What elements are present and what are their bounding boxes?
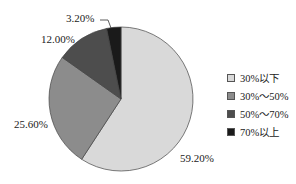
legend-item: 70%以上 [227, 124, 289, 139]
legend-item: 30%以下 [227, 70, 289, 85]
legend: 30%以下 30%～50% 50%～70% 70%以上 [227, 70, 289, 142]
legend-item: 50%～70% [227, 106, 289, 121]
legend-label: 30%～50% [240, 88, 289, 103]
label-3-20: 3.20% [66, 12, 94, 24]
legend-label: 30%以下 [240, 70, 279, 85]
legend-swatch [227, 92, 235, 100]
legend-label: 50%～70% [240, 106, 289, 121]
legend-swatch [227, 128, 235, 136]
label-12-00: 12.00% [41, 33, 75, 45]
legend-item: 30%～50% [227, 88, 289, 103]
label-25-60: 25.60% [14, 118, 48, 130]
label-59-20: 59.20% [180, 152, 214, 164]
legend-swatch [227, 74, 235, 82]
legend-swatch [227, 110, 235, 118]
legend-label: 70%以上 [240, 124, 279, 139]
